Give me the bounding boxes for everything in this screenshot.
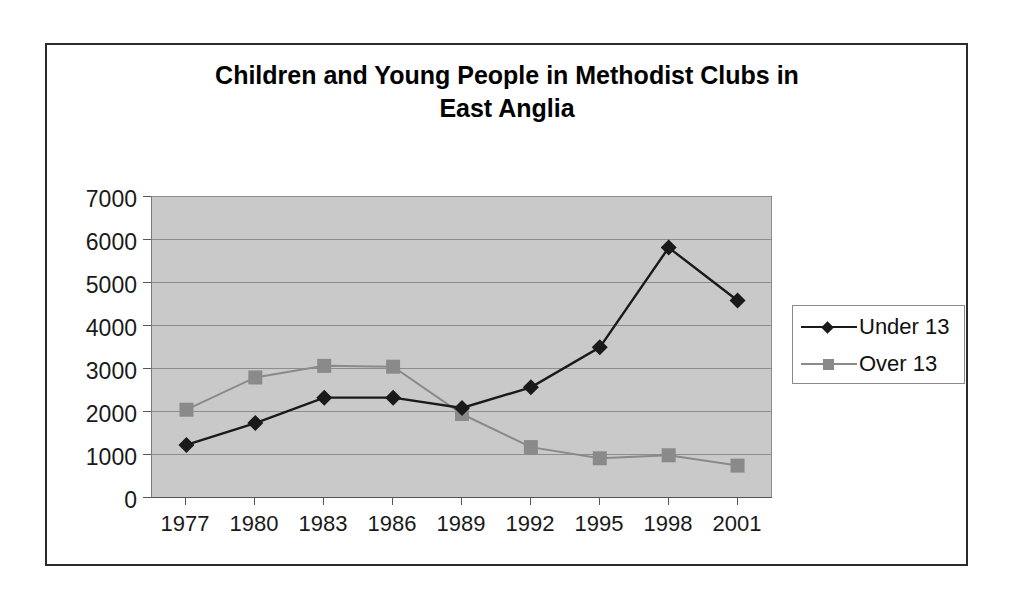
- y-tick-mark-4000: [143, 325, 151, 326]
- x-tick-label-1986: 1986: [352, 513, 432, 535]
- legend-item-over-13[interactable]: Over 13: [793, 347, 966, 381]
- square-marker-icon: [386, 360, 400, 374]
- chart-legend: Under 13 Over 13: [792, 305, 965, 384]
- square-marker-icon: [317, 359, 331, 373]
- square-marker-icon: [593, 451, 607, 465]
- legend-swatch-under-13: [801, 318, 857, 336]
- y-tick-label-7000: 7000: [61, 188, 137, 211]
- y-tick-label-0: 0: [61, 489, 137, 512]
- y-tick-mark-7000: [143, 196, 151, 197]
- x-tick-mark-1983: [323, 497, 324, 505]
- legend-label-under-13: Under 13: [859, 314, 950, 340]
- x-tick-label-1998: 1998: [628, 513, 708, 535]
- x-tick-label-1995: 1995: [559, 513, 639, 535]
- x-tick-label-2001: 2001: [697, 513, 777, 535]
- chart-title-line-1: Children and Young People in Methodist C…: [107, 59, 907, 92]
- x-tick-mark-1998: [668, 497, 669, 505]
- y-tick-mark-6000: [143, 239, 151, 240]
- diamond-marker-icon: [592, 339, 608, 355]
- y-tick-label-5000: 5000: [61, 274, 137, 297]
- x-tick-label-1992: 1992: [490, 513, 570, 535]
- diamond-marker-icon: [178, 437, 194, 453]
- square-marker-icon: [731, 459, 745, 473]
- x-tick-mark-1992: [530, 497, 531, 505]
- plot-area: [151, 196, 772, 498]
- square-marker-icon: [179, 403, 193, 417]
- diamond-marker-icon: [821, 321, 834, 334]
- chart-figure: Children and Young People in Methodist C…: [0, 0, 1023, 597]
- x-tick-mark-1989: [461, 497, 462, 505]
- square-marker-icon: [823, 359, 834, 370]
- series-plot: [152, 196, 772, 497]
- diamond-marker-icon: [316, 390, 332, 406]
- x-tick-label-1980: 1980: [214, 513, 294, 535]
- y-tick-mark-1000: [143, 454, 151, 455]
- y-tick-label-6000: 6000: [61, 231, 137, 254]
- y-tick-label-2000: 2000: [61, 403, 137, 426]
- diamond-marker-icon: [523, 379, 539, 395]
- x-tick-mark-1980: [254, 497, 255, 505]
- chart-title: Children and Young People in Methodist C…: [107, 59, 907, 125]
- y-tick-mark-5000: [143, 282, 151, 283]
- square-marker-icon: [662, 448, 676, 462]
- square-marker-icon: [248, 370, 262, 384]
- diamond-marker-icon: [385, 390, 401, 406]
- diamond-marker-icon: [247, 415, 263, 431]
- legend-item-under-13[interactable]: Under 13: [793, 310, 966, 344]
- y-tick-mark-0: [143, 497, 151, 498]
- x-tick-mark-1995: [599, 497, 600, 505]
- y-tick-mark-2000: [143, 411, 151, 412]
- y-tick-mark-3000: [143, 368, 151, 369]
- y-tick-label-3000: 3000: [61, 360, 137, 383]
- y-tick-label-1000: 1000: [61, 446, 137, 469]
- x-tick-mark-1986: [392, 497, 393, 505]
- x-tick-mark-2001: [737, 497, 738, 505]
- y-tick-label-4000: 4000: [61, 317, 137, 340]
- chart-frame: Children and Young People in Methodist C…: [45, 43, 968, 566]
- x-tick-label-1977: 1977: [145, 513, 225, 535]
- chart-title-line-2: East Anglia: [107, 92, 907, 125]
- x-tick-label-1989: 1989: [421, 513, 501, 535]
- legend-swatch-over-13: [801, 355, 857, 373]
- x-tick-mark-1977: [185, 497, 186, 505]
- square-marker-icon: [524, 440, 538, 454]
- legend-label-over-13: Over 13: [859, 351, 937, 377]
- x-tick-label-1983: 1983: [283, 513, 363, 535]
